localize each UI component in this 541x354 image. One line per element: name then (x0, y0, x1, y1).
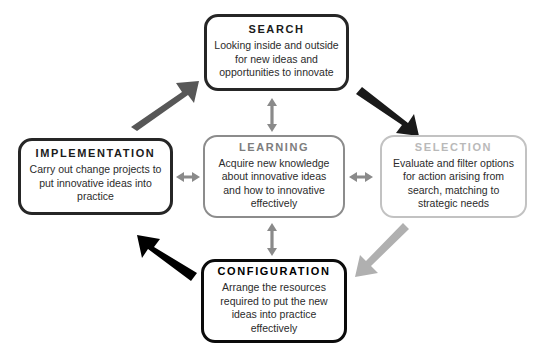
node-implementation-body: Carry out change projects to put innovat… (28, 163, 163, 203)
arrow-search-learning (267, 98, 277, 132)
arrow-learning-selection (349, 172, 373, 182)
node-configuration-body: Arrange the resources required to put th… (211, 281, 337, 335)
arrow-implementation-to-search (131, 81, 199, 131)
node-implementation-title: IMPLEMENTATION (36, 147, 156, 160)
node-selection-body: Evaluate and filter options for action a… (389, 157, 518, 211)
node-configuration[interactable]: CONFIGURATION Arrange the resources requ… (201, 259, 347, 343)
arrow-configuration-to-implementation (137, 235, 197, 281)
arrow-implementation-learning (176, 172, 200, 182)
node-learning-title: LEARNING (239, 141, 309, 154)
node-implementation[interactable]: IMPLEMENTATION Carry out change projects… (18, 138, 173, 215)
node-search-body: Looking inside and outside for new ideas… (214, 39, 339, 79)
arrow-search-to-selection (356, 87, 419, 136)
node-search[interactable]: SEARCH Looking inside and outside for ne… (204, 14, 349, 91)
arrow-learning-configuration (267, 223, 277, 256)
node-selection-title: SELECTION (415, 141, 492, 154)
node-learning-body: Acquire new knowledge about innovative i… (212, 157, 336, 211)
node-search-title: SEARCH (248, 23, 304, 36)
node-learning[interactable]: LEARNING Acquire new knowledge about inn… (203, 135, 345, 218)
innovation-cycle-diagram: SEARCH Looking inside and outside for ne… (0, 0, 541, 354)
node-configuration-title: CONFIGURATION (218, 265, 331, 278)
arrow-selection-to-configuration (355, 223, 409, 277)
node-selection[interactable]: SELECTION Evaluate and filter options fo… (380, 135, 527, 218)
